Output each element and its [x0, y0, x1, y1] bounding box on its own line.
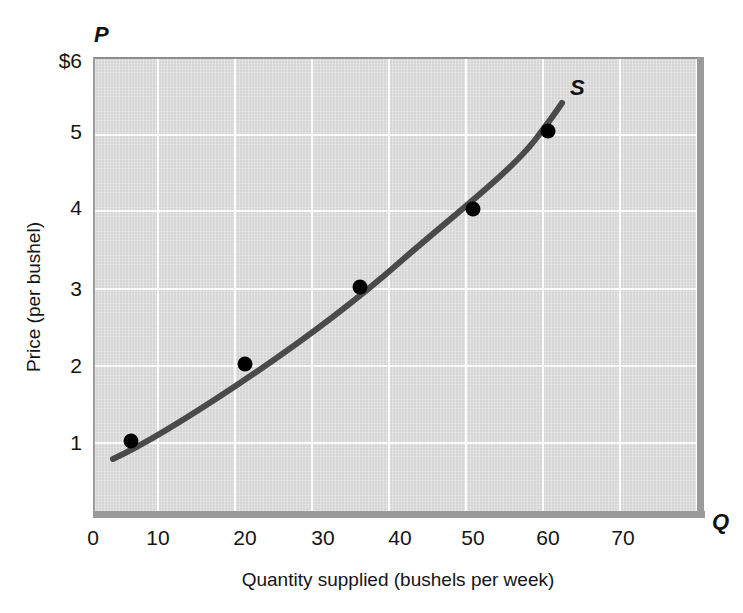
- y-axis-symbol: P: [94, 22, 109, 48]
- x-tick-label: 30: [293, 527, 353, 548]
- gridline-horizontal: [95, 134, 703, 136]
- x-axis-title: Quantity supplied (bushels per week): [93, 569, 703, 591]
- gridline-horizontal: [95, 365, 703, 367]
- x-tick-label: 0: [63, 527, 123, 548]
- x-tick-label: 20: [215, 527, 275, 548]
- x-axis-line: [93, 511, 705, 518]
- y-tick-label: 1: [32, 432, 82, 453]
- gridline-horizontal: [95, 442, 703, 444]
- supply-curve-label: S: [570, 75, 585, 101]
- y-axis-title: Price (per bushel): [23, 177, 45, 417]
- supply-curve-figure: $6 5 4 3 2 1 0 10 20 30 40 50 60 70 Pric…: [0, 0, 743, 613]
- plot-right-edge: [697, 57, 704, 517]
- y-tick-label: 5: [32, 121, 82, 142]
- plot-area: [93, 57, 703, 517]
- x-tick-label: 50: [443, 527, 503, 548]
- x-tick-label: 70: [593, 527, 653, 548]
- x-tick-label: 10: [128, 527, 188, 548]
- x-axis-symbol: Q: [712, 509, 729, 535]
- gridline-horizontal: [95, 288, 703, 290]
- gridline-horizontal: [95, 210, 703, 212]
- y-tick-label: $6: [32, 50, 82, 71]
- x-tick-label: 40: [370, 527, 430, 548]
- x-tick-label: 60: [518, 527, 578, 548]
